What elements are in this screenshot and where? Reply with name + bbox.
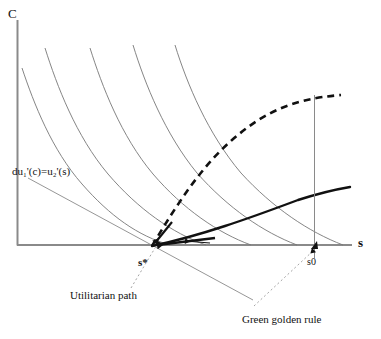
leader-line-green-golden-rule (254, 250, 314, 306)
optimal-path-dashed-curve (152, 95, 341, 246)
s-zero-label: s0 (307, 256, 316, 267)
indifference-curve-2 (45, 48, 206, 245)
s-axis-label: s (358, 235, 363, 251)
economics-figure: C s du₁'(c)=u₂'(s) s* s0 Utilitarian pat… (0, 0, 381, 339)
indifference-curve-4 (133, 45, 297, 245)
green-golden-rule-label: Green golden rule (242, 313, 321, 325)
utilitarian-path-label: Utilitarian path (70, 289, 137, 301)
arrow-along-dashed-path (155, 222, 172, 243)
c-axis-label: C (8, 6, 17, 22)
indifference-curve-1 (22, 68, 170, 245)
convergence-arrows (155, 222, 215, 245)
indifference-curve-group (22, 45, 343, 245)
leader-line-utilitarian-path (131, 248, 155, 288)
axes (17, 20, 352, 246)
leader-line-group (131, 248, 314, 306)
utilitarian-path-solid-curve (152, 187, 350, 246)
foc-condition-label: du₁'(c)=u₂'(s) (12, 165, 70, 177)
s-star-label: s* (138, 256, 148, 268)
